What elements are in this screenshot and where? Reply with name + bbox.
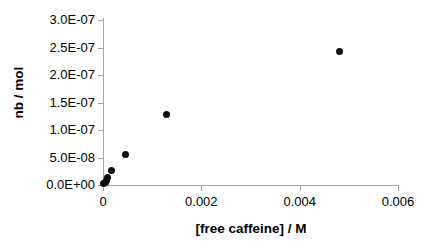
y-tick-label: 5.0E-08 [49,151,95,164]
x-tick-mark [201,186,202,191]
plot-area [103,20,398,185]
y-tick-label: 0.0E+00 [46,178,95,191]
x-tick-mark [300,186,301,191]
y-tick-label: 1.0E-07 [49,123,95,136]
x-tick-label: 0.002 [161,195,241,208]
data-point [122,151,129,158]
x-tick-label: 0 [63,195,143,208]
x-tick-label: 0.004 [260,195,340,208]
y-tick-label: 1.5E-07 [49,96,95,109]
x-axis-title: [free caffeine] / M [103,221,399,236]
x-tick-label: 0.006 [358,195,429,208]
y-axis-title: nb / mol [11,48,26,138]
y-tick-label: 3.0E-07 [49,13,95,26]
scatter-chart: 0.0E+005.0E-081.0E-071.5E-072.0E-072.5E-… [0,0,429,245]
x-axis-line [103,185,399,186]
x-tick-mark [398,186,399,191]
y-tick-label: 2.5E-07 [49,41,95,54]
y-tick-label: 2.0E-07 [49,68,95,81]
data-point [163,111,170,118]
